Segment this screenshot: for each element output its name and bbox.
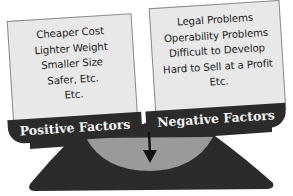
positive-factors-box: Cheaper Cost Lighter Weight Smaller Size… xyxy=(7,13,139,129)
balance-scale-diagram: Cheaper Cost Lighter Weight Smaller Size… xyxy=(0,0,293,196)
negative-factors-box: Legal Problems Operability Problems Diff… xyxy=(149,0,287,118)
